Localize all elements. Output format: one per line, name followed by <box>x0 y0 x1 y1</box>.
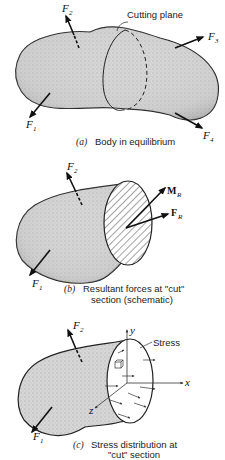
svg-text:M: M <box>167 185 177 196</box>
svg-text:F: F <box>61 2 69 14</box>
svg-text:2: 2 <box>69 9 73 17</box>
cutting-plane-label: Cutting plane <box>127 9 183 20</box>
svg-text:F: F <box>202 129 210 141</box>
svg-text:R: R <box>176 191 182 199</box>
caption-b-line2: section (schematic) <box>91 294 173 305</box>
cut-section-b <box>104 181 152 265</box>
svg-text:z: z <box>88 404 94 416</box>
svg-text:1: 1 <box>33 125 37 133</box>
stress-label: Stress <box>153 337 180 348</box>
svg-text:F: F <box>207 30 215 42</box>
panel-b: F 2 M R F R F 1 (b) Resultant forces at … <box>16 160 184 305</box>
caption-a: Body in equilibrium <box>95 136 175 147</box>
svg-text:F: F <box>171 207 177 218</box>
svg-text:x: x <box>184 376 190 388</box>
svg-text:y: y <box>129 324 135 336</box>
svg-text:1: 1 <box>39 284 43 292</box>
svg-text:1: 1 <box>40 437 44 445</box>
equilibrium-diagram: Cutting plane F 2 F 3 F 1 F 4 (a) Body i… <box>0 0 225 460</box>
caption-c-line2: "cut" section <box>108 449 160 460</box>
force-f3-a <box>175 37 203 48</box>
panel-c: y x z Stress F 2 F 1 (c) S <box>18 319 190 460</box>
force-f2-c <box>68 330 76 349</box>
svg-text:3: 3 <box>214 37 219 45</box>
svg-text:2: 2 <box>74 167 78 175</box>
caption-b-line1: Resultant forces at "cut" <box>83 283 184 294</box>
cut-section-c <box>107 339 153 423</box>
svg-text:(b): (b) <box>64 284 75 295</box>
svg-text:F: F <box>25 118 33 130</box>
svg-text:R: R <box>177 213 183 221</box>
svg-text:4: 4 <box>210 136 214 144</box>
svg-text:2: 2 <box>80 326 84 334</box>
svg-text:F: F <box>31 277 39 289</box>
svg-text:(a): (a) <box>76 137 87 148</box>
svg-text:F: F <box>32 430 40 442</box>
svg-text:F: F <box>66 160 74 172</box>
svg-text:(c): (c) <box>73 440 84 451</box>
panel-a: Cutting plane F 2 F 3 F 1 F 4 (a) Body i… <box>16 2 219 148</box>
force-f2-b <box>67 173 76 192</box>
svg-text:F: F <box>72 319 80 331</box>
